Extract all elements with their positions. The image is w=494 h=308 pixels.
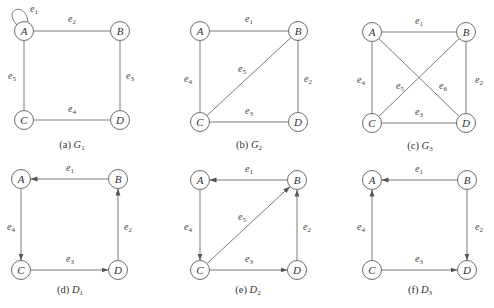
edge-label-e1: e1	[30, 3, 38, 16]
caption-d1: (d) D1	[57, 284, 83, 297]
node-a: A	[363, 171, 382, 190]
svg-text:A: A	[368, 174, 376, 186]
svg-text:C: C	[196, 116, 204, 128]
edge-label-e4: e4	[357, 221, 365, 234]
svg-text:A: A	[17, 173, 25, 185]
edge-label-e4: e4	[68, 103, 76, 116]
edge-label-e3: e3	[66, 253, 74, 266]
arc-c-b	[207, 186, 290, 263]
edge-label-e5: e5	[238, 63, 246, 76]
graph-d2: ABCDe1e2e3e4e5(e) D2	[184, 163, 311, 297]
svg-text:A: A	[196, 25, 204, 37]
svg-text:D: D	[461, 117, 470, 129]
svg-text:B: B	[464, 174, 471, 186]
edge-label-e1: e1	[245, 163, 253, 176]
edge-label-e1: e1	[66, 162, 74, 175]
edge-label-e1: e1	[415, 15, 423, 28]
edge-label-e2: e2	[124, 221, 132, 234]
edge-label-e3: e3	[415, 106, 423, 119]
node-b: B	[288, 171, 307, 190]
node-b: B	[109, 170, 128, 189]
edge-label-e3: e3	[245, 253, 253, 266]
caption-g1: (a) G1	[59, 139, 85, 152]
node-c: C	[12, 261, 31, 280]
svg-text:D: D	[462, 264, 471, 276]
svg-text:C: C	[368, 117, 376, 129]
svg-text:D: D	[113, 264, 122, 276]
edge-label-e3: e3	[245, 105, 253, 118]
node-c: C	[15, 111, 34, 130]
node-c: C	[191, 261, 210, 280]
node-c: C	[363, 261, 382, 280]
edge-label-e1: e1	[245, 13, 253, 26]
node-b: B	[289, 22, 308, 41]
svg-text:C: C	[17, 264, 25, 276]
edge-label-e3: e3	[415, 253, 423, 266]
svg-text:D: D	[293, 116, 302, 128]
caption-d3: (f) D3	[408, 284, 433, 297]
edge-label-e2: e2	[475, 221, 483, 234]
node-d: D	[457, 114, 476, 133]
edge-label-e2: e2	[68, 13, 76, 26]
svg-text:D: D	[115, 114, 124, 126]
node-d: D	[458, 261, 477, 280]
node-a: A	[191, 171, 210, 190]
edge-label-e5: e5	[238, 211, 246, 224]
node-b: B	[457, 23, 476, 42]
node-c: C	[363, 114, 382, 133]
caption-g3: (c) G3	[407, 140, 433, 153]
edge-label-e4: e4	[7, 221, 15, 234]
graph-diagram-canvas: ABCDe1e2e3e4e5(a) G1ABCDe1e2e3e4e5(b) G2…	[0, 0, 494, 308]
node-d: D	[109, 261, 128, 280]
node-a: A	[12, 170, 31, 189]
svg-text:A: A	[196, 174, 204, 186]
svg-text:A: A	[20, 25, 28, 37]
graph-g1: ABCDe1e2e3e4e5(a) G1	[8, 3, 134, 152]
node-d: D	[289, 113, 308, 132]
svg-text:B: B	[295, 25, 302, 37]
graph-g3: ABCDe1e2e3e4e5e6(c) G3	[357, 15, 483, 153]
edge-label-e3: e3	[126, 70, 134, 83]
caption-d2: (e) D2	[235, 284, 261, 297]
node-d: D	[111, 111, 130, 130]
node-c: C	[191, 113, 210, 132]
caption-g2: (b) G2	[236, 139, 262, 152]
graph-d3: ABCDe1e2e3e4(f) D3	[357, 163, 483, 297]
node-d: D	[288, 261, 307, 280]
edge-label-e5: e5	[396, 80, 404, 93]
edge-label-e4: e4	[357, 74, 365, 87]
svg-text:C: C	[196, 264, 204, 276]
graph-d1: ABCDe1e2e3e4(d) D1	[7, 162, 132, 297]
edge-labels: e1e2e3e4e5	[8, 3, 134, 116]
edges	[372, 180, 467, 270]
svg-text:C: C	[20, 114, 28, 126]
edge-label-e2: e2	[303, 221, 311, 234]
edge-label-e6: e6	[439, 80, 447, 93]
node-b: B	[111, 22, 130, 41]
node-b: B	[458, 171, 477, 190]
edge-label-e4: e4	[184, 73, 192, 86]
svg-text:A: A	[368, 26, 376, 38]
graph-g2: ABCDe1e2e3e4e5(b) G2	[184, 13, 312, 152]
svg-text:B: B	[294, 174, 301, 186]
edge-label-e5: e5	[8, 70, 16, 83]
svg-text:D: D	[292, 264, 301, 276]
svg-text:B: B	[117, 25, 124, 37]
edge-label-e2: e2	[475, 74, 483, 87]
svg-text:B: B	[463, 26, 470, 38]
node-a: A	[15, 22, 34, 41]
node-a: A	[363, 23, 382, 42]
svg-text:B: B	[115, 173, 122, 185]
edge-c-b	[207, 37, 291, 115]
edge-label-e4: e4	[184, 221, 192, 234]
node-a: A	[191, 22, 210, 41]
edge-label-e2: e2	[304, 73, 312, 86]
svg-text:C: C	[368, 264, 376, 276]
edge-label-e1: e1	[415, 163, 423, 176]
